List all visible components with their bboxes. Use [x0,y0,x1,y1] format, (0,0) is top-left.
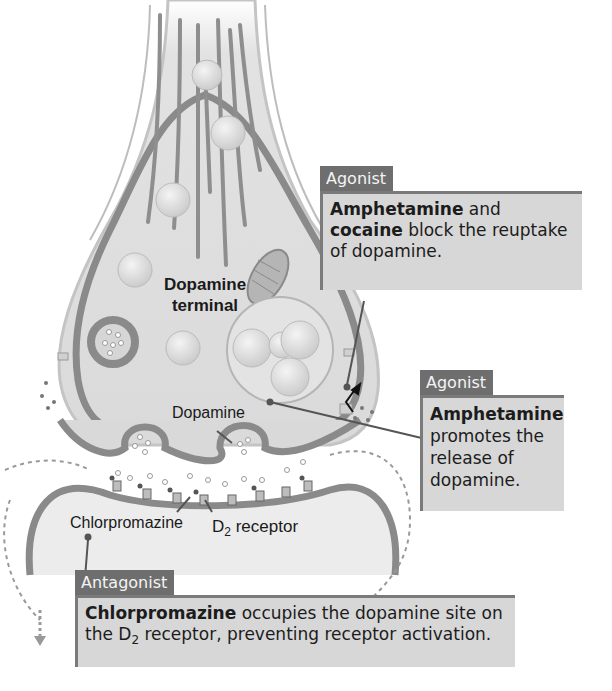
drug-name: cocaine [330,220,403,240]
callout-antagonist: Antagonist Chlorpromazine occupies the d… [75,570,515,667]
callout-tag: Antagonist [75,570,174,595]
d2-prefix: D [212,517,224,536]
d2-suffix: receptor [231,517,298,536]
terminal-label: Dopamine terminal [155,274,255,316]
dopamine-vesicle [91,320,135,364]
callout-text: promotes the release of dopamine. [430,426,544,490]
callout-body: Amphetamine and cocaine block the reupta… [320,191,582,290]
callout-agonist-release: Agonist Amphetamine promotes the release… [420,370,564,511]
drug-name: Amphetamine [330,199,463,219]
callout-body: Chlorpromazine occupies the dopamine sit… [75,595,515,667]
callout-agonist-reuptake: Agonist Amphetamine and cocaine block th… [320,166,582,290]
d2-receptor-label: D2 receptor [212,517,298,537]
callout-body: Amphetamine promotes the release of dopa… [420,395,564,511]
chlorpromazine-label: Chlorpromazine [70,514,183,532]
callout-tag: Agonist [320,166,393,191]
terminal-label-line1: Dopamine [155,274,255,295]
callout-text: receptor, preventing receptor activation… [139,624,491,644]
drug-name: Amphetamine [430,404,563,424]
callout-text: and [463,199,500,219]
d2-subscript: 2 [131,633,139,647]
dopamine-label: Dopamine [172,404,245,422]
drug-name: Chlorpromazine [85,603,236,623]
terminal-label-line2: terminal [155,295,255,316]
callout-tag: Agonist [420,370,493,395]
d2-subscript: 2 [224,525,231,539]
